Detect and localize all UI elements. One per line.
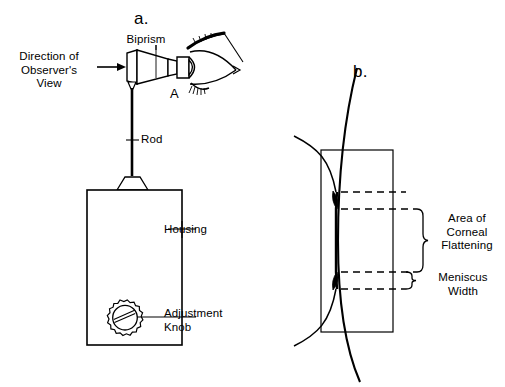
area-of-corneal-flattening-label: Area of Corneal Flattening [432,212,502,253]
panel-a-letter: a. [134,9,149,28]
adjustment-knob-label: Adjustment Knob [164,307,250,334]
eye-illustration [188,33,243,95]
direction-of-view-label: Direction of Observer's View [2,50,96,91]
rod-label: Rod [141,133,162,147]
biprism-head [127,45,193,84]
housing-label: Housing [164,223,207,237]
panel-b-letter: b. [353,62,368,81]
contact-point-label: A [170,86,179,101]
brace-corneal-flattening [417,209,428,272]
biprism-label: Biprism [110,33,182,47]
rod-mount [117,177,148,190]
meniscus-width-label: Meniscus Width [432,271,494,298]
direction-arrow-icon [97,63,126,71]
panel-a-artwork [87,33,243,345]
brace-meniscus-width [406,272,416,289]
figure-root: a. b. Biprism Direction of Observer's Vi… [0,0,505,387]
tonometer-rod [128,82,136,176]
panel-b-artwork [294,68,428,382]
